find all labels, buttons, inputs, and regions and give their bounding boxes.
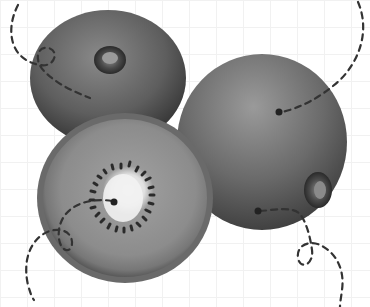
annotation-dot-halved-kiwi (111, 199, 118, 206)
kiwi-scene-graphic (0, 0, 370, 307)
kiwi-halved (37, 113, 213, 283)
kiwi-illustration (0, 0, 370, 307)
annotation-dot-right-kiwi-bottom (255, 208, 262, 215)
annotation-dot-right-kiwi (276, 109, 283, 116)
